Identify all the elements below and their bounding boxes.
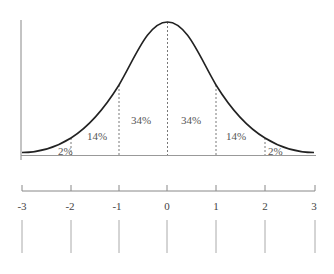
bell-curve (22, 22, 314, 153)
bell-curve-chart: 2% 14% 34% 34% 14% 2% (21, 20, 316, 160)
tick-label-minus-2: -2 (65, 200, 74, 212)
tick-label-plus-2: 2 (262, 200, 268, 212)
tick-label-plus-3: 3 (311, 200, 317, 212)
region-label-0-plus1: 34% (181, 114, 201, 126)
tick-label-0: 0 (164, 200, 170, 212)
tick-label-plus-1: 1 (213, 200, 219, 212)
tick-label-minus-1: -1 (112, 200, 121, 212)
tick-label-minus-3: -3 (17, 200, 27, 212)
region-label-plus1-plus2: 14% (226, 130, 246, 142)
region-label-minus1-0: 34% (131, 114, 151, 126)
region-label-minus3-minus2: 2% (58, 145, 73, 157)
number-line: -3 -2 -1 0 1 2 3 (17, 185, 317, 253)
region-label-plus2-plus3: 2% (268, 145, 283, 157)
normal-distribution-diagram: 2% 14% 34% 34% 14% 2% -3 -2 -1 0 1 2 3 (0, 0, 334, 274)
region-label-minus2-minus1: 14% (87, 130, 107, 142)
